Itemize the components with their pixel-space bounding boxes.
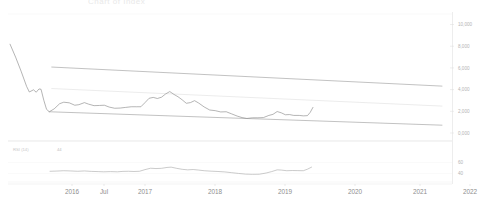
- x-axis-label: 2021: [413, 188, 428, 195]
- x-axis-label: 2016: [65, 188, 80, 195]
- x-axis-label: 2017: [138, 188, 153, 195]
- x-axis-label: 2020: [348, 188, 363, 195]
- rsi-legend-value: 44: [57, 147, 62, 152]
- trendline-upper-resistance: [51, 67, 442, 86]
- chart-canvas: 10,0008,0006,0004,0002,0000,00060402016J…: [0, 0, 486, 213]
- trendline-mid-dashed: [51, 89, 442, 107]
- x-axis-label: 2022: [463, 188, 478, 195]
- rsi-y-axis-label: 60: [458, 160, 464, 165]
- chart-root: Chart of Index 10,0008,0006,0004,0002,00…: [0, 0, 486, 213]
- rsi-y-axis-label: 40: [458, 171, 464, 176]
- x-axis-label: Jul: [100, 188, 108, 195]
- rsi-legend-label: RSI (14): [13, 147, 29, 152]
- y-axis-label: 10,000: [458, 22, 472, 27]
- x-axis-label: 2019: [278, 188, 293, 195]
- y-axis-label: 8,000: [458, 44, 470, 49]
- y-axis-label: 6,000: [458, 66, 470, 71]
- price-line: [10, 44, 313, 118]
- y-axis-label: 4,000: [458, 87, 470, 92]
- x-axis-label: 2018: [208, 188, 223, 195]
- y-axis-label: 0,000: [458, 131, 470, 136]
- y-axis-label: 2,000: [458, 109, 470, 114]
